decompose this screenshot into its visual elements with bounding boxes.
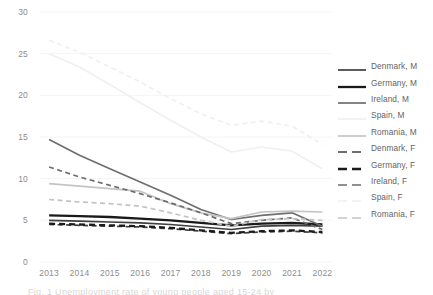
series-line-spain-m bbox=[49, 54, 322, 169]
legend-swatch bbox=[338, 78, 366, 88]
legend-item-romania-f[interactable]: Romania, F bbox=[338, 206, 433, 222]
legend-item-ireland-m[interactable]: Ireland, M bbox=[338, 91, 433, 107]
legend-item-label: Spain, M bbox=[371, 110, 405, 120]
x-axis-tick-label: 2018 bbox=[184, 268, 218, 278]
legend-swatch bbox=[338, 160, 366, 170]
legend-item-romania-m[interactable]: Romania, M bbox=[338, 124, 433, 140]
legend-item-label: Germany, F bbox=[371, 160, 415, 170]
x-axis-tick-label: 2020 bbox=[245, 268, 279, 278]
x-axis-tick-label: 2022 bbox=[305, 268, 339, 278]
legend-item-label: Denmark, F bbox=[371, 143, 415, 153]
legend-item-label: Ireland, M bbox=[371, 94, 409, 104]
legend-item-label: Spain, F bbox=[371, 192, 403, 202]
x-axis-tick-label: 2019 bbox=[214, 268, 248, 278]
legend-item-germany-f[interactable]: Germany, F bbox=[338, 156, 433, 172]
x-axis-tick-label: 2017 bbox=[154, 268, 188, 278]
legend-item-label: Germany, M bbox=[371, 78, 417, 88]
legend-item-denmark-f[interactable]: Denmark, F bbox=[338, 140, 433, 156]
legend-swatch bbox=[338, 127, 366, 137]
legend-swatch bbox=[338, 176, 366, 186]
legend-item-label: Romania, M bbox=[371, 127, 417, 137]
figure-caption: Fig. 1 Unemployment rate of young people… bbox=[28, 287, 274, 295]
legend-item-label: Romania, F bbox=[371, 209, 415, 219]
legend-item-spain-m[interactable]: Spain, M bbox=[338, 107, 433, 123]
line-chart: 051015202530 201320142015201620172018201… bbox=[0, 0, 433, 295]
legend-item-ireland-f[interactable]: Ireland, F bbox=[338, 173, 433, 189]
legend-swatch bbox=[338, 110, 366, 120]
legend-item-spain-f[interactable]: Spain, F bbox=[338, 189, 433, 205]
legend-item-label: Denmark, M bbox=[371, 61, 417, 71]
x-axis-tick-label: 2014 bbox=[62, 268, 96, 278]
legend-swatch bbox=[338, 94, 366, 104]
legend-item-label: Ireland, F bbox=[371, 176, 407, 186]
legend-item-germany-m[interactable]: Germany, M bbox=[338, 74, 433, 90]
legend-item-denmark-m[interactable]: Denmark, M bbox=[338, 58, 433, 74]
chart-legend: Denmark, MGermany, MIreland, MSpain, MRo… bbox=[338, 58, 433, 222]
legend-swatch bbox=[338, 61, 366, 71]
legend-swatch bbox=[338, 192, 366, 202]
series-line-ireland-m bbox=[49, 140, 322, 227]
legend-swatch bbox=[338, 209, 366, 219]
x-axis-tick-label: 2021 bbox=[275, 268, 309, 278]
legend-swatch bbox=[338, 143, 366, 153]
x-axis-tick-label: 2016 bbox=[123, 268, 157, 278]
x-axis-tick-label: 2013 bbox=[32, 268, 66, 278]
x-axis-tick-label: 2015 bbox=[93, 268, 127, 278]
